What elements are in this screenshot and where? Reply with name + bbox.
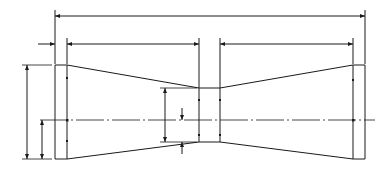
tick-mark xyxy=(66,140,68,142)
tick-mark xyxy=(219,134,221,136)
tick-mark xyxy=(198,99,200,101)
tick-mark xyxy=(352,79,354,81)
part-outline-top xyxy=(55,65,365,88)
tick-mark xyxy=(198,134,200,136)
drawing-canvas xyxy=(0,0,387,189)
tick-mark xyxy=(66,119,69,122)
part-outline-bottom xyxy=(55,142,365,159)
tick-mark xyxy=(219,99,221,101)
tick-mark xyxy=(66,77,68,79)
tick-mark xyxy=(352,119,355,122)
